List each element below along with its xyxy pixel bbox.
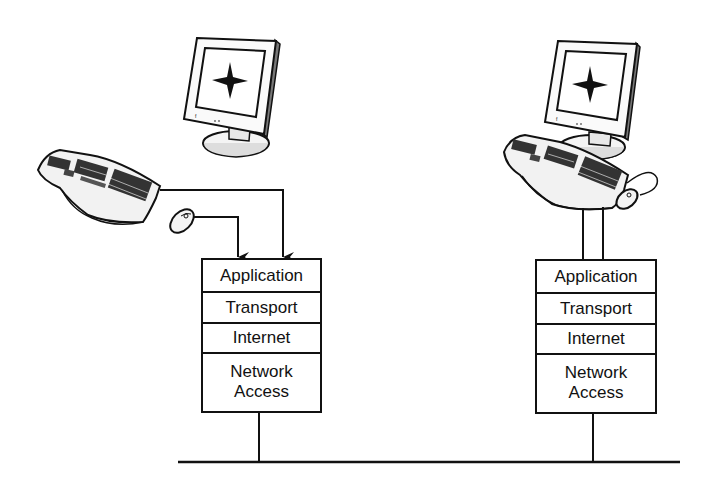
layer-network-access-line2: Access (234, 382, 289, 402)
layer-internet: Internet (537, 325, 655, 355)
mouse-to-stack-arrow (193, 217, 238, 257)
layer-internet: Internet (203, 324, 320, 354)
left-protocol-stack: Application Transport Internet Network A… (201, 258, 322, 413)
layer-network-access-line1: Network (230, 362, 292, 382)
right-protocol-stack: Application Transport Internet Network A… (535, 259, 657, 414)
layer-network-access: Network Access (537, 355, 655, 410)
layer-transport: Transport (537, 294, 655, 325)
left-keyboard-icon (38, 150, 160, 224)
layer-network-access: Network Access (203, 354, 320, 409)
left-monitor-icon: f (184, 38, 280, 157)
layer-transport: Transport (203, 293, 320, 324)
right-pedestal (583, 207, 603, 260)
layer-application: Application (537, 261, 655, 294)
layer-network-access-line2: Access (569, 383, 624, 403)
layer-application: Application (203, 260, 320, 293)
layer-network-access-line1: Network (565, 363, 627, 383)
left-mouse-icon (166, 205, 199, 238)
diagram-canvas: f f (0, 0, 702, 489)
